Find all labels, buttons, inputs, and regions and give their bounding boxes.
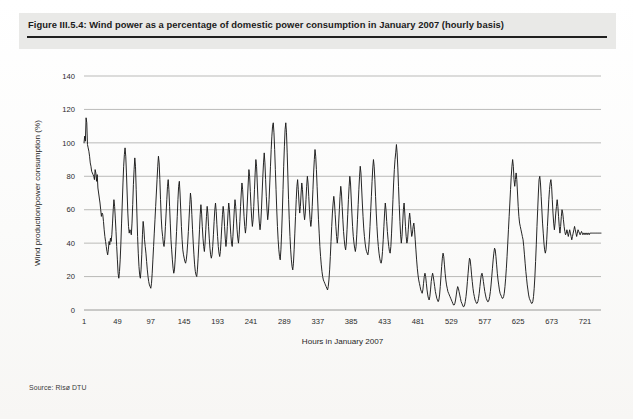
x-tick-label: 49 (113, 317, 121, 326)
y-axis-tick-labels: 020406080100120140 (62, 72, 75, 315)
x-tick-label: 433 (378, 317, 391, 326)
line-chart: 020406080100120140 149971451932412893373… (0, 52, 633, 362)
x-tick-label: 193 (211, 317, 224, 326)
figure-page: Figure III.5.4: Wind power as a percenta… (0, 0, 633, 419)
y-tick-label: 120 (62, 105, 75, 114)
gridlines (84, 76, 601, 310)
x-tick-label: 337 (311, 317, 324, 326)
x-axis-tick-labels: 1499714519324128933738543348152957762567… (82, 317, 591, 326)
y-axis-title: Wind production/power consumption (%) (33, 120, 42, 266)
x-tick-label: 289 (278, 317, 291, 326)
title-divider (27, 36, 607, 38)
x-tick-label: 529 (445, 317, 458, 326)
x-tick-label: 145 (178, 317, 191, 326)
chart-area: 020406080100120140 149971451932412893373… (0, 52, 633, 362)
figure-title: Figure III.5.4: Wind power as a percenta… (28, 19, 608, 30)
x-tick-label: 721 (579, 317, 592, 326)
y-tick-label: 140 (62, 72, 75, 81)
y-tick-label: 80 (67, 172, 75, 181)
x-tick-label: 1 (82, 317, 86, 326)
x-axis-title: Hours in January 2007 (302, 337, 384, 346)
x-tick-label: 673 (545, 317, 558, 326)
y-tick-label: 20 (67, 272, 75, 281)
wind-percentage-line (84, 118, 601, 307)
x-tick-label: 97 (147, 317, 155, 326)
x-tick-label: 385 (345, 317, 358, 326)
y-tick-label: 40 (67, 239, 75, 248)
y-tick-label: 0 (71, 306, 75, 315)
x-tick-label: 625 (512, 317, 525, 326)
x-tick-label: 241 (245, 317, 258, 326)
y-tick-label: 60 (67, 205, 75, 214)
source-note: Source: Risø DTU (29, 384, 87, 391)
x-tick-label: 577 (478, 317, 491, 326)
x-tick-label: 481 (412, 317, 425, 326)
y-tick-label: 100 (62, 139, 75, 148)
